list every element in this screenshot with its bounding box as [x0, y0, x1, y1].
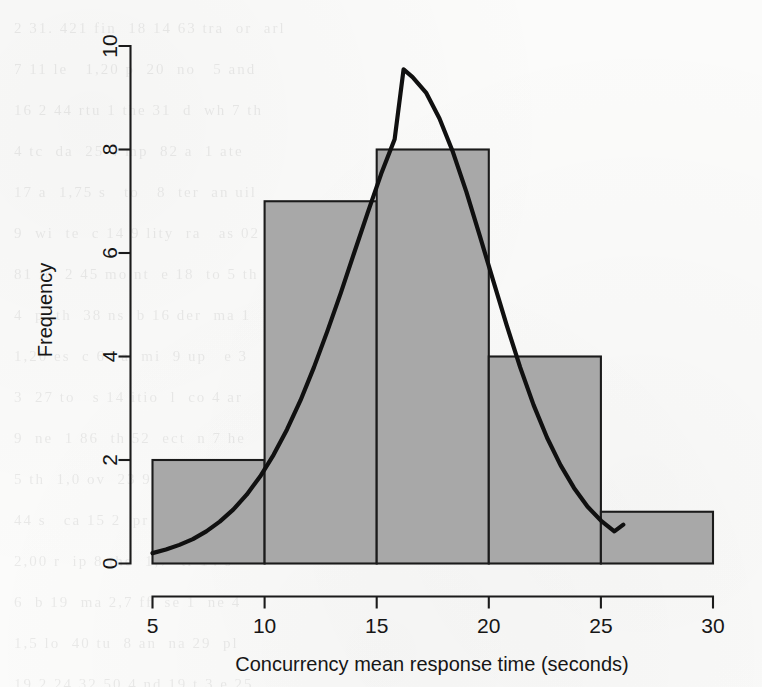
x-tick-label: 25 — [589, 614, 612, 637]
histogram-bar — [489, 357, 601, 564]
y-tick-label: 0 — [98, 558, 121, 570]
x-tick-label: 30 — [701, 614, 724, 637]
histogram-figure: 0246810 51015202530 Frequency Concurrenc… — [0, 0, 762, 687]
x-tick-label: 5 — [147, 614, 159, 637]
histogram-bar — [601, 512, 713, 564]
chart-page: 2 31. 421 fin 18 14 63 tra or arl 7 11 l… — [0, 0, 762, 687]
x-tick-label: 20 — [477, 614, 500, 637]
x-axis: 51015202530 — [147, 597, 725, 637]
y-tick-label: 2 — [98, 454, 121, 466]
histogram-bar — [265, 201, 377, 563]
x-tick-label: 15 — [365, 614, 388, 637]
y-tick-label: 4 — [98, 350, 121, 362]
y-axis-title: Frequency — [34, 263, 56, 358]
y-tick-label: 6 — [98, 247, 121, 259]
y-axis: 0246810 — [98, 34, 131, 569]
x-axis-title: Concurrency mean response time (seconds) — [235, 653, 629, 675]
x-tick-label: 10 — [253, 614, 276, 637]
bars-group — [153, 150, 714, 564]
y-tick-label: 10 — [98, 34, 121, 57]
y-tick-label: 8 — [98, 144, 121, 156]
